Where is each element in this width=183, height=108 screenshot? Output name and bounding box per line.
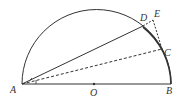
label-d: D [139,12,148,23]
center-point-o [93,83,95,85]
label-c: C [164,47,171,58]
segment-ac [22,49,162,84]
label-o: O [90,87,97,98]
label-b: B [166,85,172,96]
label-a: A [9,84,17,95]
geometry-diagram: A O B C D E [0,0,183,108]
label-e: E [153,8,160,19]
segment-ec [153,20,162,49]
